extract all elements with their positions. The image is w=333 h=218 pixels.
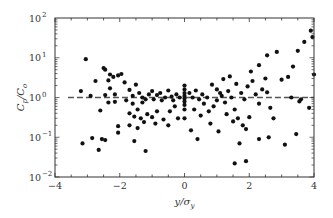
data-point — [263, 76, 267, 80]
data-point — [124, 98, 128, 102]
data-point — [136, 126, 140, 130]
data-point — [113, 100, 117, 104]
data-point — [228, 74, 232, 78]
data-point — [176, 116, 180, 120]
data-point — [296, 49, 300, 53]
data-point — [103, 93, 107, 97]
data-point — [212, 104, 216, 108]
plot-area — [68, 29, 316, 166]
data-point — [187, 91, 191, 95]
data-point — [283, 143, 287, 147]
data-point — [280, 78, 284, 82]
data-point — [225, 112, 229, 116]
y-tick-label: 10 — [29, 92, 41, 103]
data-point — [194, 88, 198, 92]
data-point — [268, 106, 272, 110]
data-point — [239, 91, 243, 95]
data-point — [189, 128, 193, 132]
data-point — [178, 95, 182, 99]
data-point — [307, 106, 311, 110]
data-point — [136, 107, 140, 111]
data-point — [309, 29, 313, 33]
data-point — [90, 136, 94, 140]
data-point — [260, 87, 264, 91]
y-tick-exponent: 0 — [42, 91, 46, 99]
data-point — [131, 94, 135, 98]
data-point — [142, 120, 146, 124]
data-point — [182, 116, 186, 120]
data-point — [134, 83, 138, 87]
data-point — [234, 82, 238, 86]
data-point — [147, 92, 151, 96]
data-point — [244, 127, 248, 131]
data-point — [182, 87, 186, 91]
y-tick-label: 10 — [29, 13, 41, 24]
data-point — [257, 102, 261, 106]
data-point — [139, 116, 143, 120]
data-point — [132, 139, 136, 143]
data-point — [93, 79, 97, 83]
y-axis-title: Cp/Co — [15, 84, 29, 111]
data-point — [197, 97, 201, 101]
data-point — [192, 107, 196, 111]
data-point — [208, 122, 212, 126]
data-point — [166, 88, 170, 92]
data-point — [247, 115, 251, 119]
data-point — [171, 98, 175, 102]
data-point — [113, 92, 117, 96]
data-point — [160, 98, 164, 102]
data-point — [132, 115, 136, 119]
data-point — [294, 132, 298, 136]
data-point — [97, 148, 101, 152]
data-point — [241, 123, 245, 127]
data-point — [161, 117, 165, 121]
data-point — [202, 102, 206, 106]
data-point — [127, 111, 131, 115]
data-point — [137, 91, 141, 95]
data-point — [182, 103, 186, 107]
data-point — [152, 97, 156, 101]
data-point — [163, 95, 167, 99]
data-point — [231, 119, 235, 123]
data-point — [127, 123, 131, 127]
data-point — [205, 95, 209, 99]
data-point — [257, 137, 261, 141]
data-point — [168, 109, 172, 113]
data-point — [103, 68, 107, 72]
y-tick-exponent: −1 — [42, 130, 52, 138]
data-point — [127, 88, 131, 92]
y-tick-label: 10 — [29, 52, 41, 63]
data-point — [119, 72, 123, 76]
data-point — [170, 95, 174, 99]
data-point — [226, 89, 230, 93]
axes: −4−202410−210−1100101102y/σyCp/Co — [15, 11, 317, 210]
data-point — [286, 75, 290, 79]
data-point — [79, 89, 83, 93]
data-point — [215, 98, 219, 102]
data-point — [191, 95, 195, 99]
data-point — [108, 86, 112, 90]
x-axis-title: y/σy — [174, 196, 196, 210]
data-point — [145, 112, 149, 116]
x-tick-label: −2 — [113, 180, 127, 191]
y-tick-exponent: −2 — [42, 170, 52, 178]
scatter-chart: −4−202410−210−1100101102y/σyCp/Co — [0, 0, 333, 218]
data-point — [144, 97, 148, 101]
data-point — [257, 63, 261, 67]
data-point — [289, 95, 293, 99]
data-point — [89, 94, 93, 98]
data-point — [299, 97, 303, 101]
data-point — [229, 95, 233, 99]
y-tick-label: 10 — [29, 132, 41, 143]
data-point — [249, 69, 253, 73]
data-point — [275, 50, 279, 54]
data-point — [207, 109, 211, 113]
data-point — [84, 57, 88, 61]
data-point — [80, 141, 84, 145]
x-tick-label: 2 — [246, 180, 252, 191]
data-point — [254, 92, 258, 96]
data-point — [220, 94, 224, 98]
data-point — [216, 129, 220, 133]
data-point — [116, 131, 120, 135]
x-tick-label: 4 — [311, 180, 317, 191]
